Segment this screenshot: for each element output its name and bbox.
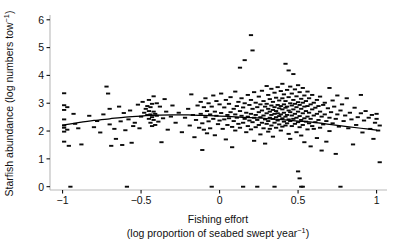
data-point [263, 143, 267, 145]
data-point [263, 106, 267, 108]
data-point [363, 110, 367, 112]
data-point [142, 112, 146, 114]
data-point [106, 93, 110, 95]
data-point [299, 135, 303, 137]
data-point [296, 84, 300, 86]
data-point [109, 145, 113, 147]
data-point [340, 103, 344, 105]
data-point [254, 114, 258, 116]
data-point [346, 127, 350, 129]
data-point [271, 136, 275, 138]
data-point [371, 138, 375, 140]
data-point [210, 186, 214, 188]
data-point [312, 128, 316, 130]
data-point [148, 122, 152, 124]
data-point [170, 105, 174, 107]
chart-canvas: 0123456−1−0.500.51Fishing effort(log pro… [0, 0, 403, 245]
data-point [200, 149, 204, 151]
data-point [280, 108, 284, 110]
data-point [147, 110, 151, 112]
data-point [290, 115, 294, 117]
data-point [235, 105, 239, 107]
data-point [291, 73, 295, 75]
data-point [130, 142, 134, 144]
data-point [233, 130, 237, 132]
data-point [238, 110, 242, 112]
data-point [290, 93, 294, 95]
data-point [265, 112, 269, 114]
data-point [205, 132, 209, 134]
data-point [296, 170, 300, 172]
data-point [104, 86, 108, 88]
data-point [279, 105, 283, 107]
data-point [228, 96, 232, 98]
y-tick-label: 5 [38, 41, 44, 53]
data-point [320, 150, 324, 152]
data-point [280, 97, 284, 99]
data-point [153, 113, 157, 115]
data-point [304, 100, 308, 102]
data-point [327, 87, 331, 89]
data-point [290, 125, 294, 127]
y-tick-label: 0 [38, 181, 44, 193]
data-point [241, 186, 245, 188]
data-point [374, 118, 378, 120]
data-point [324, 141, 328, 143]
data-point [327, 117, 331, 119]
data-point [144, 108, 148, 110]
x-tick-label: 0.5 [291, 194, 306, 206]
data-point [312, 115, 316, 117]
data-point [123, 129, 127, 131]
data-point [152, 119, 156, 121]
data-point [342, 120, 346, 122]
data-point [192, 136, 196, 138]
data-point [150, 103, 154, 105]
data-point [326, 107, 330, 109]
data-point [272, 122, 276, 124]
data-point [315, 113, 319, 115]
data-point [199, 101, 203, 103]
axes-layer [47, 15, 388, 194]
data-point [228, 111, 232, 113]
data-point [287, 70, 291, 72]
data-point [133, 122, 137, 124]
data-point [354, 124, 358, 126]
data-point [71, 113, 75, 115]
data-point [323, 102, 327, 104]
data-point [258, 133, 262, 135]
data-point [261, 115, 265, 117]
data-point [260, 90, 264, 92]
data-point [200, 122, 204, 124]
data-point [225, 114, 229, 116]
data-point [261, 100, 265, 102]
data-point [302, 141, 306, 143]
data-point [272, 106, 276, 108]
data-point [92, 126, 96, 128]
data-point [309, 103, 313, 105]
data-point [250, 108, 254, 110]
data-point [141, 101, 145, 103]
data-point [62, 92, 66, 94]
data-point [316, 119, 320, 121]
data-point [378, 161, 382, 163]
data-point [305, 128, 309, 130]
data-point [225, 124, 229, 126]
data-point [345, 97, 349, 99]
data-point [266, 108, 270, 110]
data-point [203, 116, 207, 118]
data-point [298, 177, 302, 179]
data-point [274, 110, 278, 112]
data-point [246, 94, 250, 96]
data-point [285, 122, 289, 124]
data-point [298, 115, 302, 117]
data-point [249, 113, 253, 115]
data-point [150, 116, 154, 118]
data-point [114, 138, 118, 140]
data-point [335, 113, 339, 115]
data-point [87, 115, 91, 117]
data-point [125, 186, 129, 188]
data-point [329, 111, 333, 113]
data-point [62, 109, 66, 111]
data-point [261, 127, 265, 129]
data-point [321, 104, 325, 106]
